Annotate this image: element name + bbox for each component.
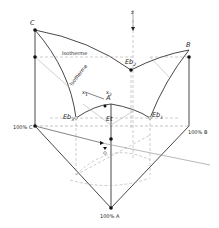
label-base-b: 100% B [188, 129, 208, 135]
label-base-c: 100% C [13, 124, 33, 130]
label-top-b: B [186, 41, 191, 49]
label-isotherm-diagonal: Isotherme [68, 63, 88, 87]
label-x1: x1 [82, 89, 88, 97]
label-eb2: Eb2 [125, 58, 136, 67]
label-et: Et [106, 115, 113, 123]
label-isotherm-horizontal: Isotherme [62, 50, 87, 56]
label-top-c: C [30, 19, 35, 27]
vertical-edges [35, 10, 189, 208]
label-axis-z: z [131, 9, 134, 15]
label-base-a: 100% A [100, 213, 120, 219]
ternary-diagram: C B A z Isotherme Isotherme Eb2 Eb1 Eb3 … [0, 0, 219, 228]
label-eb3: Eb3 [63, 113, 74, 122]
isotherm-lines [35, 57, 170, 125]
label-eb1: Eb1 [152, 111, 163, 120]
